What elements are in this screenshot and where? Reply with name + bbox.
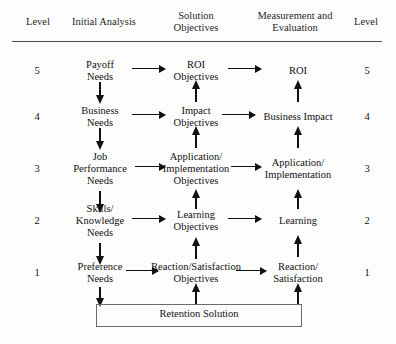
arrow-reaction-up-to-learning — [297, 243, 299, 257]
retention-solution-label: Retention Solution — [97, 308, 301, 320]
phillips-roi-model-diagram: Level Initial Analysis Solution Objectiv… — [0, 0, 396, 344]
arrow-roi-objectives-to-roi — [228, 68, 261, 69]
node-business-impact-line1: Business Impact — [248, 111, 348, 123]
level-right-1: 1 — [356, 267, 378, 278]
level-right-2: 2 — [356, 215, 378, 226]
arrow-application-up-to-business-impact — [297, 134, 299, 148]
arrow-payoff-down-to-business — [99, 82, 101, 96]
node-learning-objectives-line2: Objectives — [150, 221, 242, 233]
node-roi: ROI — [248, 65, 348, 77]
retention-solution-box: Retention Solution — [96, 304, 302, 327]
arrow-learning-objectives-up-to-application-objectives — [195, 197, 197, 209]
node-learning: Learning — [248, 215, 348, 227]
node-skills-knowledge-needs-line2: Knowledge — [55, 215, 145, 227]
header-measurement-line2: Evaluation — [240, 22, 350, 34]
arrow-application-objectives-to-application — [231, 166, 261, 167]
node-application-implementation-objectives: Application/ Implementation Objectives — [141, 151, 251, 187]
level-left-3: 3 — [26, 163, 48, 174]
arrow-payoff-to-roi-objectives — [132, 68, 165, 69]
level-left-2: 2 — [26, 215, 48, 226]
node-payoff-needs: Payoff Needs — [55, 59, 145, 83]
arrow-learning-up-to-application — [297, 197, 299, 209]
arrow-job-performance-to-application-objectives — [135, 166, 165, 167]
node-business-impact: Business Impact — [248, 111, 348, 123]
node-application-implementation-objectives-line2: Implementation — [141, 163, 251, 175]
header-solution-objectives-line2: Objectives — [148, 22, 244, 34]
arrow-retention-up-to-reaction-satisfaction — [297, 291, 299, 305]
arrow-impact-objectives-up-to-roi-objectives — [195, 88, 197, 102]
header-level-right: Level — [344, 16, 388, 28]
arrow-reaction-objectives-up-to-learning-objectives — [195, 245, 197, 259]
level-left-5: 5 — [26, 65, 48, 76]
node-preference-needs-line2: Needs — [55, 273, 145, 285]
node-job-performance-needs-line2: Performance — [55, 163, 145, 175]
header-solution-objectives: Solution Objectives — [148, 10, 244, 33]
node-application-implementation-objectives-line1: Application/ — [141, 151, 251, 163]
level-right-5: 5 — [356, 65, 378, 76]
arrow-business-to-impact-objectives — [132, 114, 165, 115]
level-right-4: 4 — [356, 111, 378, 122]
node-job-performance-needs-line1: Job — [55, 151, 145, 163]
arrow-application-objectives-up-to-impact-objectives — [195, 134, 197, 148]
level-right-3: 3 — [356, 163, 378, 174]
node-business-needs: Business Needs — [55, 105, 145, 129]
arrow-retention-up-to-reaction-objectives — [195, 291, 197, 305]
arrow-preference-down-to-retention — [99, 287, 101, 299]
node-roi-line1: ROI — [248, 65, 348, 77]
arrow-preference-to-reaction-objectives — [126, 270, 158, 271]
header-measurement-line1: Measurement and — [240, 10, 350, 22]
node-application-implementation-line2: Implementation — [243, 169, 353, 181]
arrow-skills-down-to-preference — [99, 243, 101, 257]
header-initial-analysis: Initial Analysis — [48, 16, 160, 28]
arrow-business-impact-up-to-roi — [297, 88, 299, 102]
level-left-4: 4 — [26, 111, 48, 122]
header-divider-rule — [12, 41, 382, 42]
header-solution-objectives-line1: Solution — [148, 10, 244, 22]
node-learning-line1: Learning — [248, 215, 348, 227]
node-application-implementation-objectives-line3: Objectives — [141, 175, 251, 187]
node-job-performance-needs: Job Performance Needs — [55, 151, 145, 187]
arrow-skills-to-learning-objectives — [132, 218, 165, 219]
arrow-job-performance-down-to-skills — [99, 191, 101, 205]
arrow-reaction-objectives-to-reaction — [236, 270, 266, 271]
node-job-performance-needs-line3: Needs — [55, 175, 145, 187]
level-left-1: 1 — [26, 267, 48, 278]
arrow-business-down-to-job-performance — [99, 128, 101, 142]
node-skills-knowledge-needs-line3: Needs — [55, 227, 145, 239]
arrow-impact-objectives-to-business-impact — [222, 114, 255, 115]
header-measurement-evaluation: Measurement and Evaluation — [240, 10, 350, 33]
arrow-learning-objectives-to-learning — [228, 218, 261, 219]
